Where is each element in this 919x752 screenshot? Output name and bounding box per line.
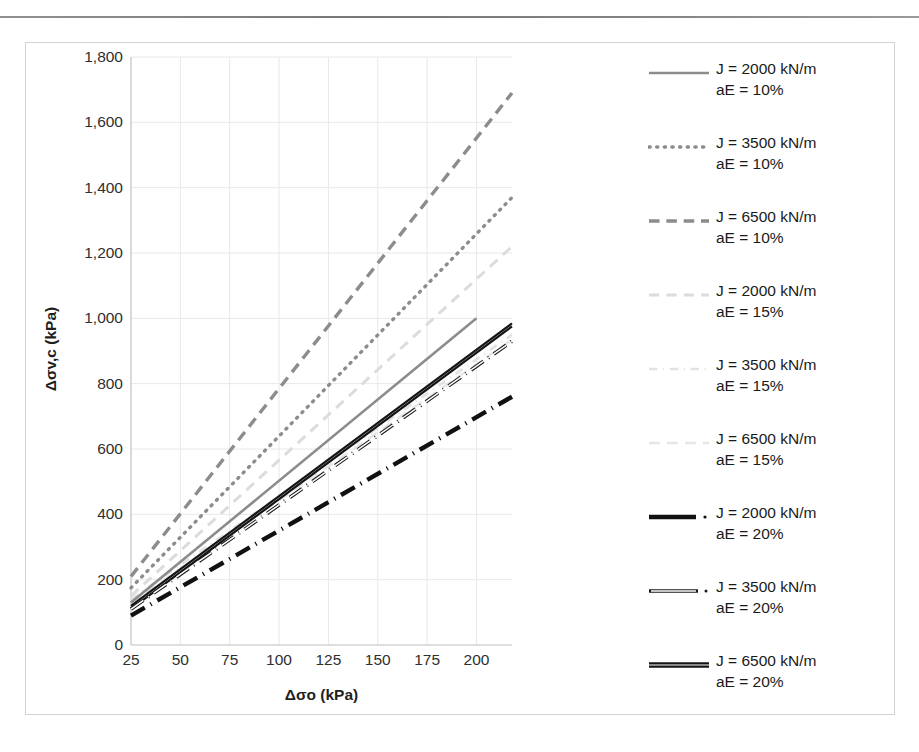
legend-label-line1: J = 2000 kN/m [716, 60, 816, 77]
legend-label: J = 3500 kN/maE = 20% [716, 576, 816, 619]
legend-item[interactable]: J = 2000 kN/maE = 10% [648, 60, 888, 106]
chart-canvas: Δσv,c (kPa) 02004006008001,0001,2001,400… [0, 0, 919, 752]
x-tick-label: 150 [365, 652, 391, 668]
legend-label-line1: J = 2000 kN/m [716, 282, 816, 299]
y-tick-label: 800 [61, 376, 123, 392]
legend-label-line1: J = 6500 kN/m [716, 652, 816, 669]
legend-label-line1: J = 6500 kN/m [716, 208, 816, 225]
legend-label-line2: aE = 20% [716, 597, 816, 618]
legend-label: J = 6500 kN/maE = 15% [716, 428, 816, 471]
legend-label: J = 2000 kN/maE = 10% [716, 58, 816, 101]
x-tick-label: 125 [315, 652, 341, 668]
x-tick-label: 75 [221, 652, 238, 668]
legend-label: J = 6500 kN/maE = 20% [716, 650, 816, 693]
y-tick-label: 600 [61, 441, 123, 457]
y-tick-label: 200 [61, 572, 123, 588]
legend-item[interactable]: J = 3500 kN/maE = 20% [648, 578, 888, 624]
legend-swatch-icon [648, 214, 710, 228]
legend-item[interactable]: J = 3500 kN/maE = 10% [648, 134, 888, 180]
legend-swatch-icon [648, 288, 710, 302]
legend-swatch-icon [648, 510, 710, 524]
legend-item[interactable]: J = 2000 kN/maE = 15% [648, 282, 888, 328]
legend-label-line1: J = 2000 kN/m [716, 504, 816, 521]
x-tick-label: 175 [414, 652, 440, 668]
legend-swatch-icon [648, 140, 710, 154]
legend-label-line2: aE = 10% [716, 153, 816, 174]
series-line [131, 197, 512, 587]
legend-label-line1: J = 3500 kN/m [716, 356, 816, 373]
legend-label-line1: J = 3500 kN/m [716, 134, 816, 151]
legend-item[interactable]: J = 3500 kN/maE = 15% [648, 356, 888, 402]
series-line [131, 323, 512, 606]
legend-label: J = 3500 kN/maE = 10% [716, 132, 816, 175]
series-lines [131, 57, 512, 645]
legend-swatch-icon [648, 436, 710, 450]
legend-label: J = 6500 kN/maE = 10% [716, 206, 816, 249]
series-line [131, 246, 512, 596]
legend-label: J = 2000 kN/maE = 15% [716, 280, 816, 323]
legend-swatch-icon [648, 362, 710, 376]
x-axis-ticks: 255075100125150175200 [131, 652, 512, 674]
chart-legend: J = 2000 kN/maE = 10%J = 3500 kN/maE = 1… [648, 60, 888, 680]
y-axis-ticks: 02004006008001,0001,2001,4001,6001,800 [60, 57, 123, 645]
legend-label: J = 2000 kN/maE = 20% [716, 502, 816, 545]
legend-label-line2: aE = 10% [716, 79, 816, 100]
legend-label-line2: aE = 15% [716, 301, 816, 322]
x-axis-title: Δσo (kPa) [131, 686, 512, 704]
x-tick-label: 100 [266, 652, 292, 668]
chart-page: Δσv,c (kPa) 02004006008001,0001,2001,400… [0, 0, 919, 752]
legend-label-line2: aE = 20% [716, 523, 816, 544]
legend-item[interactable]: J = 2000 kN/maE = 20% [648, 504, 888, 550]
x-tick-label: 25 [122, 652, 139, 668]
series-line [131, 318, 476, 602]
y-tick-label: 400 [61, 507, 123, 523]
y-tick-label: 1,600 [61, 115, 123, 131]
legend-label-line2: aE = 10% [716, 227, 816, 248]
legend-label-line2: aE = 15% [716, 375, 816, 396]
y-axis-title: Δσv,c (kPa) [42, 307, 60, 391]
legend-label-line2: aE = 20% [716, 671, 816, 692]
y-tick-label: 1,200 [61, 245, 123, 261]
legend-item[interactable]: J = 6500 kN/maE = 10% [648, 208, 888, 254]
legend-label: J = 3500 kN/maE = 15% [716, 354, 816, 397]
series-line-core [131, 341, 512, 609]
plot-area [131, 57, 512, 645]
y-tick-label: 0 [61, 637, 123, 653]
x-tick-label: 200 [464, 652, 490, 668]
legend-label-line1: J = 3500 kN/m [716, 578, 816, 595]
legend-label-line1: J = 6500 kN/m [716, 430, 816, 447]
y-tick-label: 1,400 [61, 180, 123, 196]
legend-swatch-icon [648, 658, 710, 672]
legend-label-line2: aE = 15% [716, 449, 816, 470]
legend-item[interactable]: J = 6500 kN/maE = 15% [648, 430, 888, 476]
series-line [131, 326, 512, 609]
y-tick-label: 1,000 [61, 311, 123, 327]
legend-swatch-icon [648, 66, 710, 80]
y-tick-label: 1,800 [61, 49, 123, 65]
legend-swatch-icon [648, 584, 710, 598]
legend-item[interactable]: J = 6500 kN/maE = 20% [648, 652, 888, 698]
x-tick-label: 50 [172, 652, 189, 668]
